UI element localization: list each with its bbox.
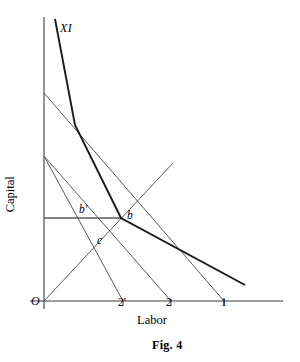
- origin-label: O: [31, 295, 40, 307]
- figure-caption: Fig. 4: [152, 339, 182, 351]
- x-tick-label-2prime: 2': [118, 297, 126, 309]
- isoquant-label-xi: XI: [60, 22, 72, 34]
- point-label-b: b: [127, 210, 133, 222]
- figure-plot-svg: [0, 0, 300, 362]
- x-tick-label-2: 2: [166, 297, 172, 309]
- x-axis-title: Labor: [137, 314, 167, 327]
- figure-container: Capital Labor O 2' 2 1 XI b' b c Fig. 4: [0, 0, 300, 362]
- expansion-ray: [44, 163, 173, 301]
- isoquant-xi-curve: [55, 19, 245, 285]
- point-label-b-prime: b': [79, 204, 87, 216]
- point-label-c: c: [97, 235, 102, 247]
- price-line-lower: [44, 156, 171, 301]
- x-tick-label-1: 1: [221, 297, 227, 309]
- y-axis-title: Capital: [4, 176, 17, 212]
- price-line-upper: [44, 93, 224, 301]
